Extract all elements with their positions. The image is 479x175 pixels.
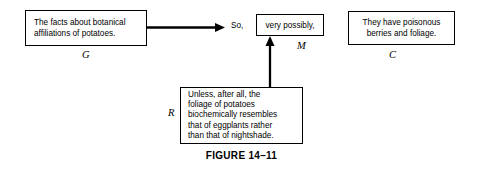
box-claim-line-2: berries and foliage.: [367, 28, 437, 39]
box-qualifier-line-1: very possibly,: [266, 20, 315, 31]
box-rebuttal-line-1: Unless, after all, the: [188, 90, 302, 100]
label-g: G: [82, 49, 90, 60]
figure-caption: FIGURE 14–11: [180, 150, 303, 161]
arrow-g-to-m: [147, 23, 225, 32]
box-grounds: The facts about botanical affiliations o…: [25, 10, 147, 46]
box-claim: They have poisonous berries and foliage.: [348, 11, 455, 45]
box-rebuttal-line-2: foliage of potatoes: [188, 100, 302, 110]
box-grounds-line-2: affiliations of potatoes.: [34, 28, 146, 39]
connector-so-text: So,: [231, 21, 243, 30]
arrow-r-to-m: [266, 36, 275, 87]
label-m: M: [297, 40, 306, 51]
box-rebuttal-line-4: that of eggplants rather: [188, 121, 302, 131]
box-qualifier: very possibly,: [256, 14, 324, 36]
label-r: R: [168, 107, 174, 118]
box-grounds-line-1: The facts about botanical: [34, 17, 146, 28]
figure-diagram: The facts about botanical affiliations o…: [0, 0, 479, 175]
box-rebuttal: Unless, after all, the foliage of potato…: [180, 87, 303, 144]
label-c: C: [389, 49, 396, 60]
box-claim-line-1: They have poisonous: [363, 17, 441, 28]
box-rebuttal-line-3: biochemically resembles: [188, 110, 302, 120]
box-rebuttal-line-5: than that of nightshade.: [188, 131, 302, 141]
